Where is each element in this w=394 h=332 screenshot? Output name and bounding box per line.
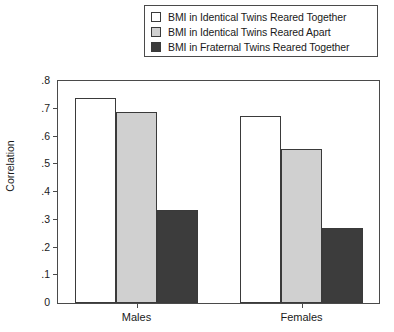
legend-item: BMI in Fraternal Twins Reared Together bbox=[151, 40, 371, 54]
legend-swatch-icon bbox=[151, 12, 161, 22]
x-axis-tick-label: Males bbox=[122, 311, 151, 323]
y-axis-tick-label: .4 bbox=[41, 185, 50, 197]
legend-item-label: BMI in Fraternal Twins Reared Together bbox=[168, 41, 349, 53]
y-axis-tick-mark bbox=[53, 191, 58, 192]
bar bbox=[240, 116, 281, 303]
y-axis-tick-label: .3 bbox=[41, 213, 50, 225]
plot-area: 0.1.2.3.4.5.6.7.8MalesFemales bbox=[57, 80, 380, 304]
y-axis-tick-label: .8 bbox=[41, 74, 50, 86]
y-axis-tick-mark bbox=[53, 247, 58, 248]
y-axis-tick-mark bbox=[53, 219, 58, 220]
bar bbox=[322, 228, 363, 303]
y-axis-tick-label: .1 bbox=[41, 268, 50, 280]
y-axis-tick-mark bbox=[53, 274, 58, 275]
legend-item: BMI in Identical Twins Reared Apart bbox=[151, 25, 371, 39]
legend-swatch-icon bbox=[151, 42, 161, 52]
y-axis-title: Correlation bbox=[2, 0, 18, 332]
chart-legend: BMI in Identical Twins Reared TogetherBM… bbox=[144, 5, 378, 57]
y-axis-tick-label: .5 bbox=[41, 157, 50, 169]
bar bbox=[157, 210, 198, 303]
bar-chart-figure: BMI in Identical Twins Reared TogetherBM… bbox=[0, 0, 394, 332]
x-axis-tick-label: Females bbox=[280, 311, 322, 323]
y-axis-tick-label: .7 bbox=[41, 102, 50, 114]
bar bbox=[75, 98, 116, 303]
bar bbox=[281, 149, 322, 303]
legend-item-label: BMI in Identical Twins Reared Apart bbox=[168, 26, 331, 38]
y-axis-tick-label: .6 bbox=[41, 130, 50, 142]
bar bbox=[116, 112, 157, 303]
legend-item: BMI in Identical Twins Reared Together bbox=[151, 10, 371, 24]
y-axis-title-text: Correlation bbox=[4, 140, 16, 191]
x-axis-tick-mark bbox=[302, 303, 303, 308]
y-axis-tick-mark bbox=[53, 108, 58, 109]
y-axis-tick-label: .2 bbox=[41, 241, 50, 253]
legend-item-label: BMI in Identical Twins Reared Together bbox=[168, 11, 347, 23]
y-axis-tick-label: 0 bbox=[44, 296, 50, 308]
x-axis-tick-mark bbox=[137, 303, 138, 308]
y-axis-tick-mark bbox=[53, 136, 58, 137]
y-axis-tick-mark bbox=[53, 163, 58, 164]
legend-swatch-icon bbox=[151, 27, 161, 37]
